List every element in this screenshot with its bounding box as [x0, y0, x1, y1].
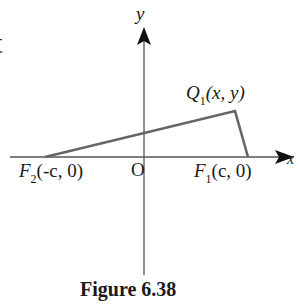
figure-caption: Figure 6.38: [80, 278, 176, 301]
x-axis-label: x: [287, 150, 294, 168]
point-label-f2: F2(-c, 0): [19, 160, 83, 182]
f2-subscript: 2: [31, 172, 37, 186]
point-label-q1: Q1(x, y): [186, 82, 245, 104]
text-fragment: t: [0, 26, 2, 60]
q1-coords: (x, y): [206, 82, 245, 103]
point-label-f1: F1(c, 0): [194, 160, 252, 182]
diagram-canvas: [0, 0, 299, 307]
q1-subscript: 1: [200, 94, 206, 108]
f2-name: F: [19, 160, 31, 181]
triangle-path: [45, 111, 248, 157]
f1-coords: (c, 0): [212, 160, 252, 181]
origin-label: O: [131, 159, 145, 181]
f1-subscript: 1: [206, 172, 212, 186]
q1-name: Q: [186, 82, 200, 103]
y-axis-label: y: [136, 3, 144, 25]
f2-coords: (-c, 0): [37, 160, 83, 181]
f1-name: F: [194, 160, 206, 181]
